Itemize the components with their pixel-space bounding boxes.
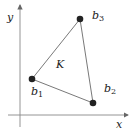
region-label-k: K: [55, 58, 65, 71]
label-b3: b3: [92, 9, 104, 23]
label-b2: b2: [104, 82, 116, 96]
vertex-b2: [90, 100, 97, 107]
y-axis-label: y: [6, 11, 14, 24]
label-b1: b1: [31, 85, 43, 99]
vertex-b3: [77, 16, 84, 23]
x-axis-label: x: [116, 118, 123, 131]
triangle-diagram: x y K b1 b2 b3: [0, 0, 131, 133]
vertex-labels: b1 b2 b3: [31, 9, 116, 99]
vertex-b1: [29, 76, 36, 83]
axes: x y: [6, 5, 128, 131]
